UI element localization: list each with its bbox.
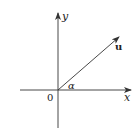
y-axis-label: y	[61, 10, 69, 23]
vector-u-label: u	[115, 41, 122, 52]
origin-label: 0	[47, 92, 53, 103]
coordinate-diagram: y u α 0 x	[0, 0, 140, 139]
angle-alpha-label: α	[68, 80, 75, 91]
x-axis-label: x	[124, 91, 131, 104]
